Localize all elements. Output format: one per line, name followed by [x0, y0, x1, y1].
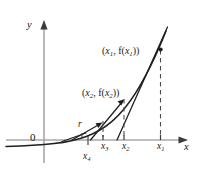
point-label-x2-sub2: 2 [109, 92, 112, 99]
root-label-r: r [78, 120, 82, 130]
y-axis-label: y [27, 20, 32, 31]
point-label-x2-sub1: 2 [90, 92, 93, 99]
point-label-x2-close: )) [113, 87, 120, 98]
x-axis-label: x [184, 142, 189, 153]
tick-label-x3-sub: 3 [105, 145, 108, 152]
point-label-x1-close: )) [133, 45, 140, 56]
tangent-line-at-x2 [91, 102, 123, 141]
point-label-x1-mid: , f( [113, 45, 125, 56]
tangent-line-x1-group [117, 27, 168, 140]
curve-point-markers-group [159, 47, 163, 51]
point-label-x1-sub1: 1 [110, 50, 113, 57]
point-label-x2-mid: , f( [93, 87, 105, 98]
point-marker-x1 [159, 47, 163, 51]
tangent-line-at-x1 [117, 27, 168, 140]
tick-label-x1-sub: 1 [161, 145, 164, 152]
tick-label-x4: x4 [83, 152, 90, 162]
tick-label-x1: x1 [157, 142, 164, 152]
point-label-x2: (x2, f(x2)) [82, 88, 119, 98]
origin-label: 0 [30, 132, 36, 143]
newtons-method-figure: y x 0 (x1, f(x1)) (x2, f(x2)) r x1 x2 x3… [0, 0, 198, 177]
tick-label-x2: x2 [122, 142, 129, 152]
y-axis-arrowhead [40, 20, 47, 30]
tick-label-x3: x3 [101, 142, 108, 152]
tick-label-x4-sub: 4 [87, 155, 90, 162]
point-label-x1: (x1, f(x1)) [102, 46, 139, 56]
point-label-x1-sub2: 1 [129, 50, 132, 57]
tick-label-x2-sub: 2 [126, 145, 129, 152]
